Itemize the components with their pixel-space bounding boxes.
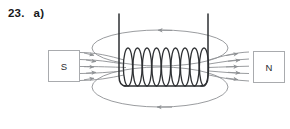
pole-label-south: S — [48, 50, 80, 82]
solenoid-coil — [119, 14, 209, 86]
field-lines-right-diverging — [208, 52, 249, 81]
coil-turn — [180, 48, 189, 86]
solenoid-field-diagram — [0, 0, 290, 129]
field-arrow-right-2 — [228, 60, 240, 61]
coil-turn — [190, 48, 199, 86]
coil-turn — [123, 48, 132, 86]
coil-turn — [133, 48, 142, 86]
figure-root: 23.a) — [0, 0, 290, 129]
pole-south-text: S — [61, 61, 67, 72]
pole-north-text: N — [266, 62, 273, 73]
pole-label-north: N — [253, 51, 285, 83]
coil-turn — [199, 48, 208, 86]
